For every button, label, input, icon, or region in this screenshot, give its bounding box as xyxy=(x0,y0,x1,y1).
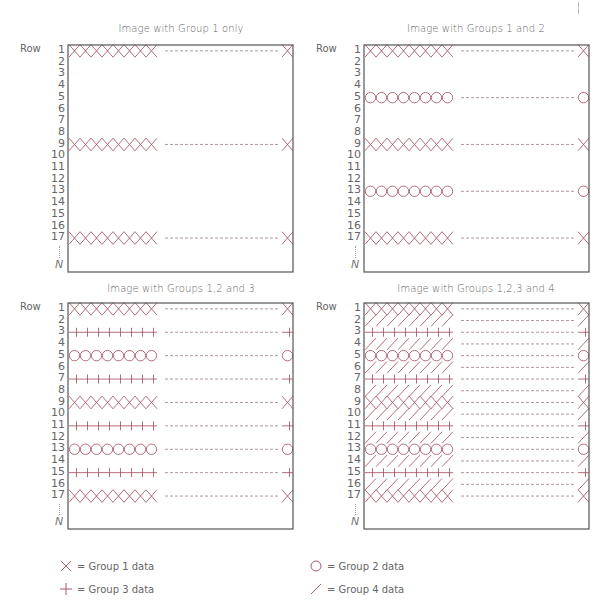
row-axis-label: Row xyxy=(316,43,337,54)
row-label: 5 xyxy=(43,91,65,102)
legend-item-group2: = Group 2 data xyxy=(310,560,404,572)
row-label: 11 xyxy=(43,161,65,172)
row-label: 16 xyxy=(43,220,65,231)
legend-item-group1: = Group 1 data xyxy=(60,560,154,572)
row-axis-label: Row xyxy=(316,301,337,312)
row-continuation-dots xyxy=(355,246,356,258)
row-label: 12 xyxy=(43,173,65,184)
row-label: 10 xyxy=(339,407,361,418)
row-label: 1 xyxy=(339,44,361,55)
x-cross-icon xyxy=(60,560,72,572)
row-label: 16 xyxy=(339,220,361,231)
row-n-label: N xyxy=(55,258,63,271)
row-label: 17 xyxy=(43,489,65,500)
row-label: 7 xyxy=(43,114,65,125)
row-label: 2 xyxy=(43,314,65,325)
row-label: 4 xyxy=(43,79,65,90)
row-label: 6 xyxy=(339,361,361,372)
row-label: 6 xyxy=(43,103,65,114)
row-label: 14 xyxy=(43,454,65,465)
row-label: 15 xyxy=(339,208,361,219)
row-label: 13 xyxy=(339,184,361,195)
panel-plot xyxy=(364,303,589,529)
panel-plot xyxy=(68,303,293,529)
row-label: 9 xyxy=(339,138,361,149)
row-label: 7 xyxy=(43,372,65,383)
row-label: 13 xyxy=(43,184,65,195)
row-label: 8 xyxy=(43,384,65,395)
row-label: 16 xyxy=(43,478,65,489)
row-label: 15 xyxy=(339,466,361,477)
row-axis-label: Row xyxy=(20,43,41,54)
image-frame xyxy=(364,303,589,529)
row-label: 6 xyxy=(43,361,65,372)
row-label: 3 xyxy=(43,325,65,336)
row-label: 14 xyxy=(339,196,361,207)
row-label: 1 xyxy=(339,302,361,313)
row-label: 13 xyxy=(43,442,65,453)
row-continuation-dots xyxy=(59,504,60,515)
row-axis-label: Row xyxy=(20,301,41,312)
plus-icon xyxy=(60,583,72,595)
row-label: 5 xyxy=(43,349,65,360)
row-label: 5 xyxy=(339,91,361,102)
row-label: 1 xyxy=(43,302,65,313)
row-label: 1 xyxy=(43,44,65,55)
row-continuation-dots xyxy=(59,246,60,258)
row-label: 3 xyxy=(339,67,361,78)
row-label: 12 xyxy=(339,431,361,442)
row-label: 10 xyxy=(339,149,361,160)
row-label: 9 xyxy=(43,138,65,149)
row-label: 17 xyxy=(43,231,65,242)
panel-title: Image with Groups 1 and 2 xyxy=(407,23,545,34)
panel-plot xyxy=(68,45,293,272)
row-label: 8 xyxy=(339,126,361,137)
row-label: 10 xyxy=(43,149,65,160)
row-label: 14 xyxy=(43,196,65,207)
row-label: 16 xyxy=(339,478,361,489)
slash-icon xyxy=(310,583,322,595)
row-label: 2 xyxy=(339,314,361,325)
row-n-label: N xyxy=(351,258,359,271)
row-label: 12 xyxy=(43,431,65,442)
row-label: 11 xyxy=(339,419,361,430)
row-label: 14 xyxy=(339,454,361,465)
row-label: 15 xyxy=(43,466,65,477)
row-label: 2 xyxy=(43,56,65,67)
row-label: 9 xyxy=(339,396,361,407)
row-label: 4 xyxy=(339,337,361,348)
panel-plot xyxy=(364,45,589,272)
row-label: 13 xyxy=(339,442,361,453)
legend-label: = Group 1 data xyxy=(77,561,154,572)
row-label: 11 xyxy=(43,419,65,430)
legend-label: = Group 2 data xyxy=(327,561,404,572)
scan-mark xyxy=(578,2,579,14)
legend-item-group3: = Group 3 data xyxy=(60,583,154,595)
legend-item-group4: = Group 4 data xyxy=(310,583,404,595)
legend-label: = Group 3 data xyxy=(77,584,154,595)
row-label: 5 xyxy=(339,349,361,360)
row-label: 3 xyxy=(339,325,361,336)
legend-label: = Group 4 data xyxy=(327,584,404,595)
circle-icon xyxy=(310,560,322,572)
row-label: 7 xyxy=(339,372,361,383)
row-label: 7 xyxy=(339,114,361,125)
row-label: 17 xyxy=(339,489,361,500)
row-n-label: N xyxy=(351,515,359,528)
row-label: 3 xyxy=(43,67,65,78)
panel-title: Image with Groups 1,2,3 and 4 xyxy=(397,283,554,294)
row-label: 11 xyxy=(339,161,361,172)
panel-title: Image with Group 1 only xyxy=(118,23,243,34)
row-label: 4 xyxy=(43,337,65,348)
row-label: 8 xyxy=(43,126,65,137)
image-frame xyxy=(68,303,293,529)
row-label: 9 xyxy=(43,396,65,407)
row-label: 17 xyxy=(339,231,361,242)
row-label: 4 xyxy=(339,79,361,90)
row-label: 15 xyxy=(43,208,65,219)
row-n-label: N xyxy=(55,515,63,528)
row-continuation-dots xyxy=(355,504,356,515)
row-label: 12 xyxy=(339,173,361,184)
row-label: 6 xyxy=(339,103,361,114)
row-label: 2 xyxy=(339,56,361,67)
